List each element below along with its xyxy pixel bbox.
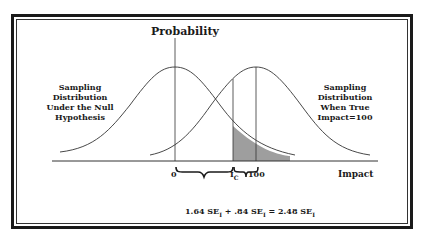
label-line: Sampling — [40, 82, 120, 92]
alternative-distribution-label: Sampling Distribution When True Impact=1… — [305, 82, 385, 122]
tick-critical: IC — [230, 169, 239, 181]
tick-critical-sub: C — [234, 174, 239, 181]
tick-zero: 0 — [171, 169, 177, 179]
formula: 1.64 SEI + .84 SEI = 2.48 SEI — [170, 206, 330, 218]
formula-term1: 1.64 SE — [185, 206, 219, 216]
label-line: Under the Null — [40, 102, 120, 112]
formula-equals: = — [268, 206, 275, 216]
label-line: Impact=100 — [305, 112, 385, 122]
null-distribution-label: Sampling Distribution Under the Null Hyp… — [40, 82, 120, 122]
formula-result: 2.48 SE — [278, 206, 312, 216]
formula-term2: .84 SE — [234, 206, 263, 216]
formula-plus: + — [225, 206, 232, 216]
label-line: When True — [305, 102, 385, 112]
x-axis-title: Impact — [338, 169, 374, 179]
formula-sub: I — [219, 211, 222, 218]
formula-sub: I — [312, 211, 315, 218]
label-line: Distribution — [305, 92, 385, 102]
label-line: Hypothesis — [40, 112, 120, 122]
label-line: Sampling — [305, 82, 385, 92]
y-axis-title: Probability — [150, 25, 220, 38]
label-line: Distribution — [40, 92, 120, 102]
tick-hundred: 100 — [248, 169, 265, 179]
brace-1-64 — [176, 167, 233, 177]
formula-sub: I — [263, 211, 266, 218]
